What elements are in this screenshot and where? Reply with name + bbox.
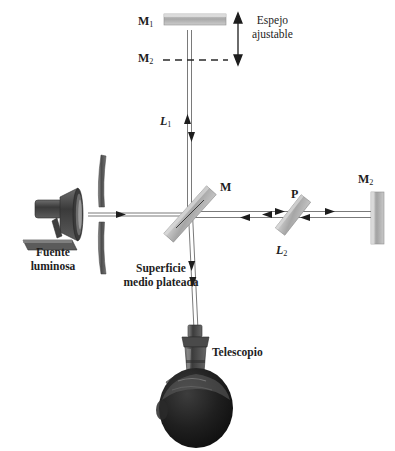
label-half-silvered-line1: Superficie [108,262,214,276]
light-source-lamp [23,188,83,250]
arrow-right-icon [325,208,335,215]
label-arm-l1: L1 [160,114,171,130]
label-light-source-line1: Fuente [14,246,92,260]
label-compensator-p: P [291,187,298,201]
label-beamsplitter-m: M [220,180,231,194]
label-adjustable-mirror-line2: ajustable [252,28,293,42]
horizontal-beam-source [88,213,190,216]
arrow-down-icon [188,132,195,142]
label-arm-l2: L2 [276,243,287,259]
arrow-left-icon [262,211,272,218]
label-mirror-m2-dashed: M2 [138,51,153,67]
mirror-m1 [164,14,226,25]
arrow-up-icon [184,114,191,124]
label-light-source-line2: luminosa [14,260,92,274]
label-light-source: Fuente luminosa [14,246,92,273]
figure-canvas: M1 M2 Espejo ajustable L1 M P M2 L2 Fuen… [0,0,395,451]
label-adjustable-mirror: Espejo ajustable [252,14,293,41]
mirror-m2-right [371,192,384,244]
label-half-silvered-surface: Superficie medio plateada [108,262,214,289]
label-mirror-m1: M1 [138,14,153,30]
arrow-right-icon [116,211,126,218]
arrow-left-icon [240,214,250,221]
label-half-silvered-line2: medio plateada [108,276,214,290]
double-arrow-vertical-icon [234,13,242,65]
label-mirror-m2-right: M2 [358,172,373,188]
michelson-interferometer-diagram [0,0,395,451]
arrow-left-icon [300,214,310,221]
aperture-slit-screen [98,155,106,274]
observer-head [156,368,233,448]
label-adjustable-mirror-line1: Espejo [252,14,293,28]
arrow-right-icon [275,208,285,215]
label-telescope: Telescopio [212,346,263,360]
